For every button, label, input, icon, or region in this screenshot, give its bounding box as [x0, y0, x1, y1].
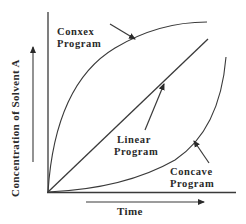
x-axis-label: Time [117, 205, 143, 217]
convex-label-line2: Program [57, 38, 101, 49]
linear-label-line2: Program [114, 146, 158, 157]
gradient-programs-diagram: Conxex Program Linear Program Concave Pr… [0, 0, 246, 224]
concave-label-line2: Program [170, 178, 214, 189]
concave-label-line1: Concave [170, 166, 213, 177]
convex-pointer-arrow [110, 24, 135, 39]
concave-pointer-arrow [194, 141, 209, 163]
convex-label-line1: Conxex [57, 26, 95, 37]
y-axis-label: Concentration of Solvent A [9, 59, 21, 197]
linear-label-line1: Linear [117, 134, 151, 145]
